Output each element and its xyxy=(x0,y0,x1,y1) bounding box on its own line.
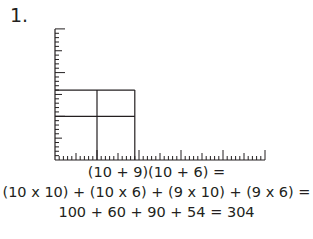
equation-line-expanded: (10 x 10) + (10 x 6) + (9 x 10) + (9 x 6… xyxy=(0,182,313,202)
horizontal-ruler xyxy=(55,150,265,160)
area-rectangle xyxy=(55,90,135,160)
equation-line-factored: (10 + 9)(10 + 6) = xyxy=(0,162,313,182)
vertical-ruler xyxy=(55,29,65,160)
equation-line-sum: 100 + 60 + 90 + 54 = 304 xyxy=(0,202,313,222)
